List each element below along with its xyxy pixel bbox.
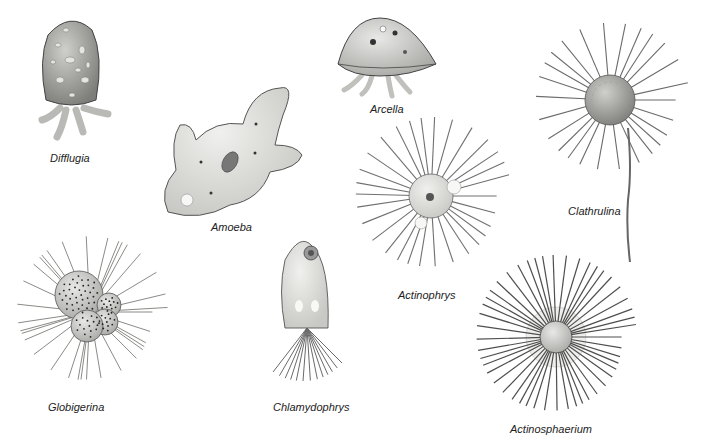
illustrations: [0, 0, 705, 442]
clathrulina-illustration: [536, 23, 688, 262]
label-arcella: Arcella: [370, 103, 404, 115]
label-difflugia: Difflugia: [50, 152, 90, 164]
arcella-illustration: [338, 18, 436, 96]
label-actinophrys: Actinophrys: [398, 289, 455, 301]
difflugia-illustration: [42, 21, 108, 137]
label-amoeba: Amoeba: [211, 221, 252, 233]
label-globigerina: Globigerina: [48, 401, 104, 413]
protozoa-illustration-plate: Difflugia Amoeba Arcella Clathrulina Act…: [0, 0, 705, 442]
label-clathrulina: Clathrulina: [568, 205, 621, 217]
chlamydophrys-illustration: [273, 241, 342, 381]
actinosphaerium-illustration: [477, 255, 636, 410]
globigerina-illustration: [17, 236, 167, 379]
label-chlamydophrys: Chlamydophrys: [273, 401, 349, 413]
actinophrys-illustration: [356, 117, 509, 266]
label-actinosphaerium: Actinosphaerium: [510, 423, 592, 435]
amoeba-illustration: [164, 88, 302, 216]
